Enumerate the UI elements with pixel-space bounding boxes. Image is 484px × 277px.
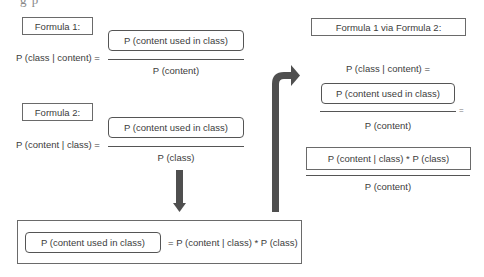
- cut-off-caption: g p: [20, 0, 39, 8]
- combined-denominator: P (content): [320, 120, 456, 131]
- combined-label: Formula 1 via Formula 2:: [311, 18, 466, 36]
- formula-1-lhs: P (class | content) =: [16, 52, 100, 63]
- derived-boxed-term: P (content used in class): [25, 232, 161, 253]
- combined-numerator-2: P (content | class) * P (class): [306, 147, 471, 170]
- derived-rhs: = P (content | class) * P (class): [168, 237, 298, 248]
- combined-fraction-line: [320, 111, 456, 112]
- formula-2-fraction-line: [108, 146, 244, 147]
- combined-denominator-2: P (content): [306, 181, 470, 192]
- formula-1-label: Formula 1:: [22, 17, 93, 35]
- bent-up-right-arrow-icon: [268, 62, 304, 214]
- formula-2-numerator: P (content used in class): [108, 117, 244, 138]
- down-arrow-icon: [172, 170, 188, 214]
- formula-1-denominator: P (content): [108, 65, 244, 76]
- formula-2-label: Formula 2:: [22, 103, 93, 121]
- combined-lhs: P (class | content) =: [320, 63, 456, 74]
- formula-1-numerator: P (content used in class): [108, 30, 244, 51]
- formula-2-lhs: P (content | class) =: [16, 139, 100, 150]
- formula-1-fraction-line: [108, 59, 244, 60]
- combined-numerator: P (content used in class): [321, 83, 455, 104]
- formula-2-denominator: P (class): [108, 152, 244, 163]
- combined-equals: =: [459, 106, 464, 115]
- combined-fraction-line-2: [306, 175, 470, 176]
